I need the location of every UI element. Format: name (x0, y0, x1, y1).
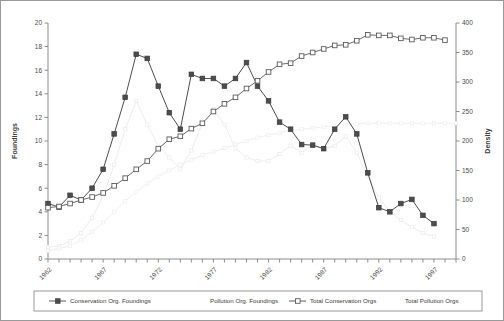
series-marker-0 (321, 146, 326, 151)
series-marker-0 (68, 193, 73, 198)
series-marker-0 (399, 201, 404, 206)
series-marker-1 (300, 151, 303, 154)
series-line-3 (48, 123, 456, 250)
series-marker-2 (432, 35, 437, 40)
series-marker-0 (90, 186, 95, 191)
y-axis-left-tick-label: 14 (35, 90, 43, 97)
series-marker-2 (233, 95, 238, 100)
series-marker-2 (46, 205, 51, 210)
series-marker-2 (332, 43, 337, 48)
series-marker-3 (443, 122, 446, 125)
series-marker-3 (421, 122, 424, 125)
series-marker-2 (443, 38, 448, 43)
plot-area: 0246810121416182005010015020025030035040… (11, 19, 492, 311)
series-marker-2 (189, 126, 194, 131)
series-marker-1 (355, 151, 358, 154)
series-marker-2 (134, 167, 139, 172)
series-marker-2 (421, 35, 426, 40)
series-marker-0 (277, 120, 282, 125)
legend-label-2: Total Conservation Orgs (310, 297, 376, 304)
chart-canvas: 0246810121416182005010015020025030035040… (1, 1, 504, 321)
series-marker-2 (310, 50, 315, 55)
series-marker-1 (91, 216, 94, 219)
series-marker-2 (365, 33, 370, 38)
series-marker-2 (200, 121, 205, 126)
y-axis-left-tick-label: 0 (38, 255, 42, 262)
chart-figure: 0246810121416182005010015020025030035040… (0, 0, 504, 321)
x-axis-tick-label: 1962 (38, 265, 53, 280)
series-marker-0 (299, 142, 304, 147)
y-axis-right-tick-label: 150 (462, 167, 473, 174)
series-marker-0 (167, 110, 172, 115)
series-marker-1 (234, 146, 237, 149)
series-marker-3 (245, 139, 248, 142)
series-marker-0 (134, 52, 139, 57)
legend-label-1: Pollution Org. Foundings (210, 297, 278, 304)
series-marker-0 (211, 76, 216, 81)
legend-label-0: Conservation Org. Foundings (70, 297, 151, 304)
series-marker-3 (377, 122, 380, 125)
y-axis-right-tick-label: 250 (462, 108, 473, 115)
series-marker-0 (200, 76, 205, 81)
series-marker-0 (222, 84, 227, 89)
series-marker-3 (91, 230, 94, 233)
series-marker-1 (79, 231, 82, 234)
series-marker-3 (79, 239, 82, 242)
series-marker-3 (190, 158, 193, 161)
series-marker-3 (234, 143, 237, 146)
series-marker-2 (167, 137, 172, 142)
series-marker-3 (311, 126, 314, 129)
y-axis-right-tick-label: 400 (462, 19, 473, 26)
series-marker-3 (223, 146, 226, 149)
x-axis-tick-label: 1977 (203, 265, 218, 280)
y-axis-right-tick-label: 50 (462, 226, 470, 233)
series-marker-0 (255, 84, 260, 89)
series-marker-2 (388, 33, 393, 38)
series-marker-3 (102, 221, 105, 224)
y-axis-right-tick-label: 300 (462, 78, 473, 85)
series-marker-0 (310, 143, 315, 148)
series-marker-0 (244, 60, 249, 65)
series-marker-1 (135, 99, 138, 102)
x-axis-tick-label: 1967 (93, 265, 108, 280)
x-axis-tick-label: 1972 (148, 265, 163, 280)
series-marker-1 (344, 135, 347, 138)
series-marker-0 (112, 132, 117, 137)
legend-label-3: Total Pollution Orgs (405, 297, 459, 304)
series-marker-2 (288, 61, 293, 66)
series-marker-2 (321, 47, 326, 52)
y-axis-left-tick-label: 4 (38, 208, 42, 215)
series-marker-2 (343, 43, 348, 48)
series-marker-0 (233, 76, 238, 81)
series-marker-3 (267, 134, 270, 137)
series-marker-2 (266, 70, 271, 75)
series-marker-3 (179, 163, 182, 166)
series-marker-0 (123, 95, 128, 100)
legend-marker-0 (56, 299, 61, 304)
series-marker-1 (289, 144, 292, 147)
series-marker-3 (113, 210, 116, 213)
series-marker-3 (399, 122, 402, 125)
series-marker-2 (244, 86, 249, 91)
series-marker-3 (355, 122, 358, 125)
series-marker-1 (399, 218, 402, 221)
y-axis-right-tick-label: 200 (462, 137, 473, 144)
series-marker-2 (57, 204, 62, 209)
series-marker-1 (245, 156, 248, 159)
y-axis-left-tick-label: 18 (35, 43, 43, 50)
series-marker-1 (267, 159, 270, 162)
series-marker-3 (300, 128, 303, 131)
series-marker-2 (68, 201, 73, 206)
x-axis-tick-label: 1987 (313, 265, 328, 280)
series-marker-3 (201, 154, 204, 157)
series-marker-1 (168, 156, 171, 159)
series-marker-1 (46, 246, 49, 249)
series-marker-3 (366, 122, 369, 125)
y-axis-left-tick-label: 6 (38, 185, 42, 192)
series-marker-0 (178, 127, 183, 132)
y-axis-left-tick-label: 20 (35, 19, 43, 26)
series-marker-3 (278, 131, 281, 134)
series-marker-0 (365, 171, 370, 176)
series-marker-2 (79, 198, 84, 203)
series-marker-3 (135, 190, 138, 193)
